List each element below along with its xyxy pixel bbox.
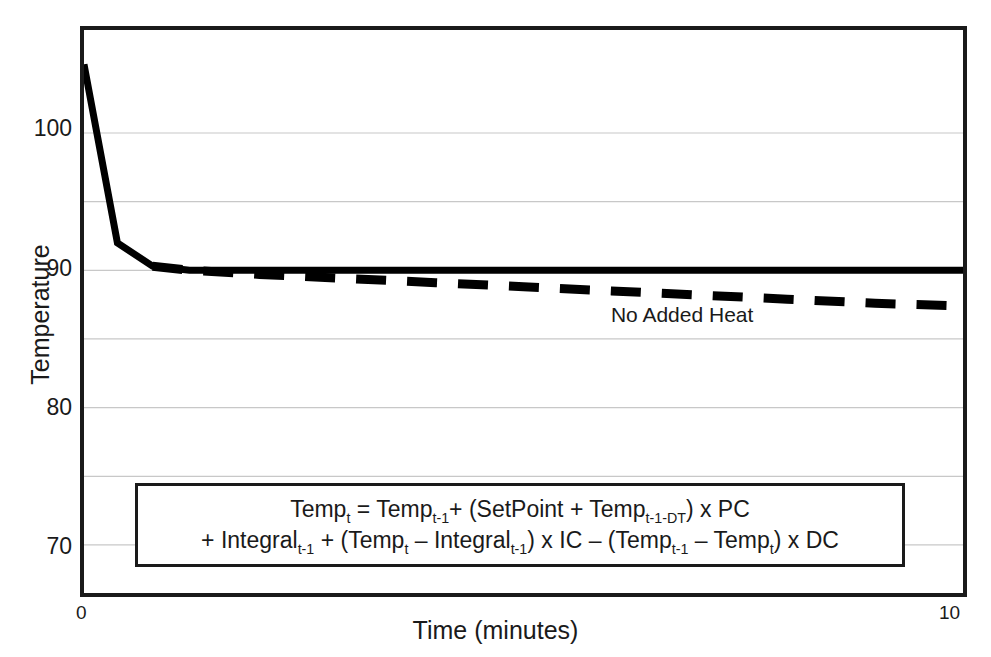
x-axis-label: Time (minutes) [0, 616, 991, 645]
equation-box: Tempt = Tempt-1+ (SetPoint + Tempt-1-DT)… [135, 483, 905, 567]
chart-figure: 708090100 Temperature 0 10 Time (minutes… [0, 0, 991, 657]
series-line [84, 64, 963, 270]
no-added-heat-label: No Added Heat [611, 303, 753, 327]
equation-line-2: + Integralt-1 + (Tempt – Integralt-1) x … [201, 526, 839, 555]
y-axis-tick-label: 70 [46, 533, 72, 560]
y-axis-tick-label: 100 [34, 115, 72, 142]
equation-line-1: Tempt = Tempt-1+ (SetPoint + Tempt-1-DT)… [290, 495, 750, 524]
y-axis-label: Temperature [26, 185, 55, 445]
